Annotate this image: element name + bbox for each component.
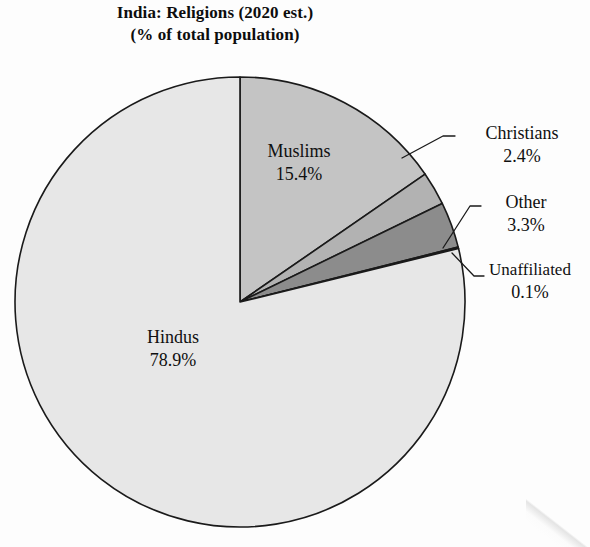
slice-label-christians: Christians 2.4%	[458, 122, 586, 169]
slice-label-other-name: Other	[470, 191, 582, 214]
slice-label-christians-name: Christians	[458, 122, 586, 145]
slice-label-muslims-name: Muslims	[229, 140, 369, 163]
chart-area: Hindus 78.9% Muslims 15.4% Christians 2.…	[0, 0, 590, 547]
slice-label-muslims-value: 15.4%	[229, 163, 369, 186]
slice-label-hindus: Hindus 78.9%	[88, 326, 258, 373]
slice-label-unaffiliated-name: Unaffiliated	[470, 259, 590, 281]
pie-chart-page: India: Religions (2020 est.) (% of total…	[0, 0, 590, 547]
slice-label-other-value: 3.3%	[470, 214, 582, 237]
slice-label-hindus-name: Hindus	[88, 326, 258, 349]
slice-label-unaffiliated-value: 0.1%	[470, 281, 590, 304]
slice-label-other: Other 3.3%	[470, 191, 582, 238]
slice-label-unaffiliated: Unaffiliated 0.1%	[470, 259, 590, 304]
slice-label-hindus-value: 78.9%	[88, 349, 258, 372]
slice-label-muslims: Muslims 15.4%	[229, 140, 369, 187]
slice-label-christians-value: 2.4%	[458, 145, 586, 168]
